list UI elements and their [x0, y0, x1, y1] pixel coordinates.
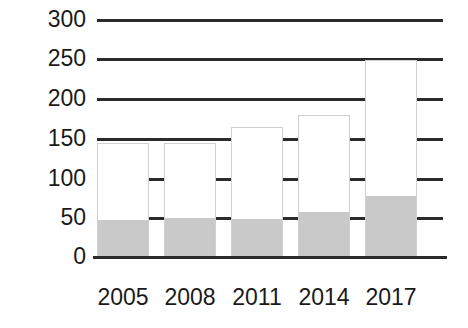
bar-2011 — [231, 127, 283, 257]
bar-2008-gray-segment — [165, 218, 215, 256]
x-tick-label-2014: 2014 — [294, 286, 354, 309]
bar-2017 — [365, 60, 417, 257]
y-tick-label-0: 0 — [16, 245, 86, 268]
y-tick-label-150: 150 — [16, 127, 86, 150]
y-tick-label-100: 100 — [16, 167, 86, 190]
bar-2014 — [298, 115, 350, 257]
bar-2005 — [97, 143, 149, 257]
axis-baseline-zero — [93, 256, 447, 259]
bar-2014-gray-segment — [299, 212, 349, 256]
bar-2011-gray-segment — [232, 219, 282, 256]
x-tick-label-2011: 2011 — [227, 286, 287, 309]
gridline-300 — [97, 19, 443, 22]
y-tick-label-50: 50 — [16, 206, 86, 229]
x-tick-label-2017: 2017 — [361, 286, 421, 309]
y-tick-label-300: 300 — [16, 8, 86, 31]
y-tick-label-200: 200 — [16, 87, 86, 110]
y-tick-label-250: 250 — [16, 47, 86, 70]
bar-2005-gray-segment — [98, 220, 148, 256]
bar-2017-gray-segment — [366, 196, 416, 256]
x-tick-label-2005: 2005 — [93, 286, 153, 309]
bar-chart: 300 250 200 150 100 50 0 2005 2008 2011 … — [0, 0, 468, 328]
bar-2008 — [164, 143, 216, 257]
x-tick-label-2008: 2008 — [160, 286, 220, 309]
